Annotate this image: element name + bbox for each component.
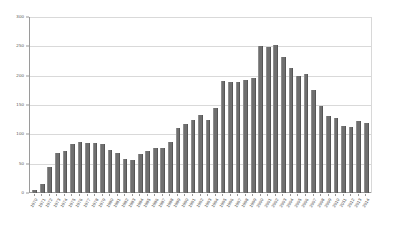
bar[interactable] bbox=[266, 47, 271, 193]
bar[interactable] bbox=[326, 116, 331, 193]
bar-slot bbox=[182, 17, 190, 193]
x-tick-mark bbox=[124, 194, 125, 196]
x-tick-mark bbox=[41, 194, 42, 196]
bar-slot bbox=[355, 17, 363, 193]
bar-slot bbox=[69, 17, 77, 193]
x-tick-mark bbox=[34, 194, 35, 196]
bar-slot bbox=[257, 17, 265, 193]
bar[interactable] bbox=[108, 150, 113, 193]
x-tick-mark bbox=[162, 194, 163, 196]
y-tick-label-100: 100 bbox=[16, 132, 24, 136]
bar-slot bbox=[121, 17, 129, 193]
x-tick-mark bbox=[290, 194, 291, 196]
bar[interactable] bbox=[243, 80, 248, 193]
bar-slot bbox=[189, 17, 197, 193]
bar[interactable] bbox=[85, 143, 90, 193]
bar[interactable] bbox=[334, 118, 339, 193]
x-tick-mark bbox=[297, 194, 298, 196]
bar[interactable] bbox=[40, 184, 45, 193]
x-tick-mark bbox=[267, 194, 268, 196]
bar[interactable] bbox=[356, 121, 361, 193]
y-tick-label-200: 200 bbox=[16, 73, 24, 77]
y-tick-label-0: 0 bbox=[21, 191, 24, 195]
bar[interactable] bbox=[63, 151, 68, 193]
bar[interactable] bbox=[47, 167, 52, 193]
bar-slot bbox=[272, 17, 280, 193]
x-tick-mark bbox=[215, 194, 216, 196]
bar-slot bbox=[302, 17, 310, 193]
y-tick-label-300: 300 bbox=[16, 15, 24, 19]
bar-slot bbox=[129, 17, 137, 193]
bar[interactable] bbox=[304, 74, 309, 193]
bar[interactable] bbox=[273, 45, 278, 193]
x-tick-mark bbox=[109, 194, 110, 196]
bar[interactable] bbox=[311, 90, 316, 193]
x-tick-mark bbox=[192, 194, 193, 196]
bar[interactable] bbox=[289, 68, 294, 193]
bar-slot bbox=[54, 17, 62, 193]
bar-slot bbox=[136, 17, 144, 193]
bar[interactable] bbox=[168, 142, 173, 193]
bar[interactable] bbox=[130, 160, 135, 193]
bar[interactable] bbox=[100, 144, 105, 193]
x-tick-mark bbox=[207, 194, 208, 196]
bar[interactable] bbox=[145, 151, 150, 193]
bar[interactable] bbox=[251, 78, 256, 193]
bar[interactable] bbox=[78, 142, 83, 193]
bar-slot bbox=[227, 17, 235, 193]
bar[interactable] bbox=[281, 57, 286, 193]
bar[interactable] bbox=[198, 115, 203, 193]
x-tick-mark bbox=[328, 194, 329, 196]
x-tick-mark bbox=[275, 194, 276, 196]
bar[interactable] bbox=[138, 154, 143, 193]
bar[interactable] bbox=[319, 106, 324, 193]
bar-slot bbox=[249, 17, 257, 193]
bar[interactable] bbox=[258, 46, 263, 193]
bar-slot bbox=[46, 17, 54, 193]
x-tick-mark bbox=[147, 194, 148, 196]
bar-slot bbox=[167, 17, 175, 193]
bar[interactable] bbox=[93, 143, 98, 193]
bar[interactable] bbox=[228, 82, 233, 193]
bar[interactable] bbox=[236, 82, 241, 193]
bar-slot bbox=[114, 17, 122, 193]
bar-slot bbox=[84, 17, 92, 193]
bar[interactable] bbox=[221, 81, 226, 193]
bar[interactable] bbox=[296, 76, 301, 193]
bar[interactable] bbox=[206, 120, 211, 193]
x-tick-mark bbox=[200, 194, 201, 196]
bar[interactable] bbox=[153, 148, 158, 193]
x-tick-mark bbox=[222, 194, 223, 196]
bar-slot bbox=[317, 17, 325, 193]
bar[interactable] bbox=[70, 144, 75, 193]
bar-slot bbox=[31, 17, 39, 193]
bar[interactable] bbox=[341, 126, 346, 193]
bar[interactable] bbox=[160, 148, 165, 193]
bar-slot bbox=[295, 17, 303, 193]
bar[interactable] bbox=[349, 127, 354, 193]
bar[interactable] bbox=[191, 120, 196, 193]
bar-slot bbox=[310, 17, 318, 193]
bar[interactable] bbox=[32, 190, 37, 193]
x-tick-mark bbox=[245, 194, 246, 196]
bar[interactable] bbox=[176, 128, 181, 193]
bar[interactable] bbox=[115, 153, 120, 193]
x-tick-mark bbox=[252, 194, 253, 196]
x-tick-mark bbox=[237, 194, 238, 196]
bar-slot bbox=[280, 17, 288, 193]
bar[interactable] bbox=[183, 124, 188, 193]
bar-slot bbox=[91, 17, 99, 193]
bar[interactable] bbox=[123, 159, 128, 193]
bar-slot bbox=[242, 17, 250, 193]
x-tick-mark bbox=[177, 194, 178, 196]
x-axis: 1970197119721973197419751976197719781979… bbox=[29, 194, 372, 225]
x-tick-mark bbox=[71, 194, 72, 196]
bar-slot bbox=[204, 17, 212, 193]
bar[interactable] bbox=[213, 108, 218, 193]
x-tick-mark bbox=[282, 194, 283, 196]
bar[interactable] bbox=[55, 153, 60, 193]
bar-slot bbox=[362, 17, 370, 193]
x-tick-mark bbox=[320, 194, 321, 196]
x-tick-mark bbox=[358, 194, 359, 196]
bar[interactable] bbox=[364, 123, 369, 193]
